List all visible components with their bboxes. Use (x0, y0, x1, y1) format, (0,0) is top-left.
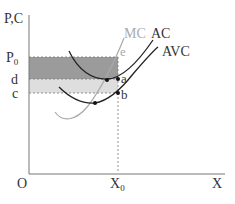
ac-label: AC (151, 26, 170, 41)
x0-tick-label: X0 (110, 176, 125, 193)
p0-tick-label: P0 (6, 50, 19, 67)
cost-curves-chart: P,C X O P0 d c X0 MC AC AVC e a b (0, 0, 235, 204)
point-a-label: a (121, 71, 127, 86)
y-axis-label: P,C (4, 11, 23, 26)
ac-min-marker (105, 78, 109, 82)
origin-label: O (17, 176, 27, 191)
fixed-cost-area (29, 79, 118, 93)
d-tick-label: d (11, 72, 18, 87)
avc-label: AVC (162, 44, 190, 59)
mc-label: MC (124, 26, 146, 41)
avc-min-marker (93, 101, 97, 105)
c-tick-label: c (12, 86, 18, 101)
point-b-marker (116, 91, 120, 95)
x-axis-label: X (212, 176, 222, 191)
point-b-label: b (121, 87, 128, 102)
point-e-label: e (120, 44, 126, 59)
point-a-marker (116, 77, 120, 81)
